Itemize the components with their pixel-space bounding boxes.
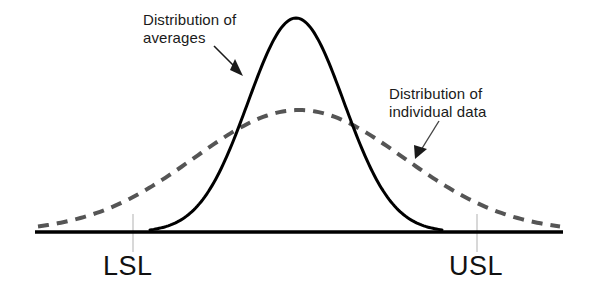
- upper-spec-limit-label: USL: [449, 251, 503, 281]
- averages-annotation-line2: averages: [143, 29, 236, 47]
- averages-callout-arrow: [214, 46, 243, 76]
- individual-annotation-line2: individual data: [389, 103, 486, 121]
- individual-data-distribution-curve: [38, 110, 560, 226]
- averages-annotation-label: Distribution of averages: [143, 11, 236, 47]
- lower-spec-limit-label: LSL: [103, 251, 153, 281]
- individual-annotation-line1: Distribution of: [389, 85, 486, 103]
- individual-callout-arrow: [414, 121, 439, 159]
- averages-distribution-curve: [150, 18, 442, 230]
- individual-annotation-label: Distribution of individual data: [389, 85, 486, 121]
- averages-annotation-line1: Distribution of: [143, 11, 236, 29]
- distribution-comparison-figure: Distribution of averages Distribution of…: [0, 0, 591, 296]
